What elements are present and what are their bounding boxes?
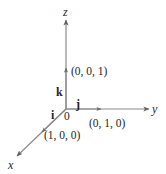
coordinate-label-k: (0, 0, 1) (71, 66, 107, 78)
axes-drawing (0, 0, 166, 174)
x-axis-label: x (8, 159, 13, 171)
origin-label: 0 (64, 111, 70, 123)
unit-vector-i-label: i (51, 109, 54, 121)
coordinate-label-j: (0, 1, 0) (89, 118, 125, 130)
coordinate-label-i: (1, 0, 0) (44, 130, 80, 142)
z-axis-label: z (63, 6, 68, 18)
unit-vector-j-label: j (76, 98, 80, 110)
y-axis-label: y (152, 103, 157, 115)
coordinate-axes-figure: z y x 0 k j i (0, 0, 1) (0, 1, 0) (1, 0,… (0, 0, 166, 174)
unit-vector-k-label: k (56, 86, 63, 98)
